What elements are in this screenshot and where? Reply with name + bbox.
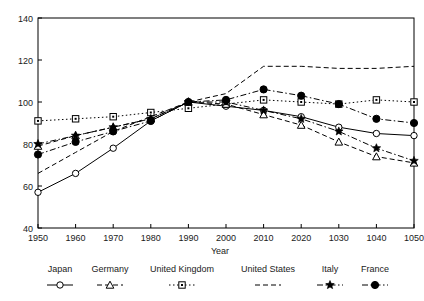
legend-entry-united-kingdom[interactable]: United Kingdom xyxy=(150,264,214,288)
marker-open-circle xyxy=(373,130,379,136)
legend-label: Italy xyxy=(322,264,339,274)
marker-filled-star xyxy=(326,281,335,289)
marker-filled-circle xyxy=(72,138,79,145)
marker-square-dot xyxy=(263,99,265,101)
y-tick-label: 80 xyxy=(23,140,33,150)
marker-filled-circle xyxy=(260,86,267,93)
y-tick-label: 120 xyxy=(18,56,33,66)
marker-open-circle xyxy=(57,282,63,288)
x-tick-label: 1030 xyxy=(329,233,349,243)
x-axis-title: Year xyxy=(211,246,229,256)
x-tick-label: 2020 xyxy=(291,233,311,243)
x-tick-label: 2010 xyxy=(254,233,274,243)
marker-square-dot xyxy=(187,107,189,109)
plot-frame xyxy=(38,18,414,228)
x-tick-label: 1040 xyxy=(366,233,386,243)
y-tick-label: 40 xyxy=(23,224,33,234)
marker-filled-circle xyxy=(410,119,417,126)
marker-square-dot xyxy=(375,99,377,101)
marker-open-circle xyxy=(72,170,78,176)
x-tick-label: 1960 xyxy=(66,233,86,243)
line-chart: 4060801001201401950196019701980199020002… xyxy=(0,0,424,301)
marker-square-dot xyxy=(37,120,39,122)
marker-filled-circle xyxy=(371,281,378,288)
marker-square-dot xyxy=(181,284,183,286)
legend-entry-japan[interactable]: Japan xyxy=(47,264,73,288)
marker-filled-circle xyxy=(185,98,192,105)
marker-square-dot xyxy=(413,101,415,103)
y-tick-label: 100 xyxy=(18,98,33,108)
legend-label: United States xyxy=(241,264,296,274)
marker-filled-circle xyxy=(147,117,154,124)
marker-square-dot xyxy=(75,118,77,120)
x-tick-label: 1990 xyxy=(178,233,198,243)
marker-open-circle xyxy=(110,145,116,151)
marker-filled-circle xyxy=(110,128,117,135)
y-tick-label: 140 xyxy=(18,14,33,24)
legend-entry-france[interactable]: France xyxy=(361,264,389,289)
marker-filled-circle xyxy=(373,115,380,122)
marker-square-dot xyxy=(150,112,152,114)
y-tick-label: 60 xyxy=(23,182,33,192)
marker-filled-circle xyxy=(34,151,41,158)
x-tick-label: 1950 xyxy=(28,233,48,243)
marker-filled-circle xyxy=(335,101,342,108)
legend-entry-germany[interactable]: Germany xyxy=(91,264,129,288)
x-tick-label: 1970 xyxy=(103,233,123,243)
marker-open-circle xyxy=(411,132,417,138)
marker-filled-circle xyxy=(298,92,305,99)
legend-label: Germany xyxy=(91,264,129,274)
chart-container: 4060801001201401950196019701980199020002… xyxy=(0,0,424,301)
marker-filled-circle xyxy=(222,96,229,103)
x-tick-label: 2000 xyxy=(216,233,236,243)
legend-label: Japan xyxy=(48,264,73,274)
legend-entry-united-states[interactable]: United States xyxy=(241,264,296,285)
x-tick-label: 1980 xyxy=(141,233,161,243)
marker-open-circle xyxy=(35,189,41,195)
x-tick-label: 1050 xyxy=(404,233,424,243)
legend-entry-italy[interactable]: Italy xyxy=(317,264,343,289)
legend-label: United Kingdom xyxy=(150,264,214,274)
legend-label: France xyxy=(361,264,389,274)
marker-square-dot xyxy=(300,101,302,103)
marker-square-dot xyxy=(112,116,114,118)
